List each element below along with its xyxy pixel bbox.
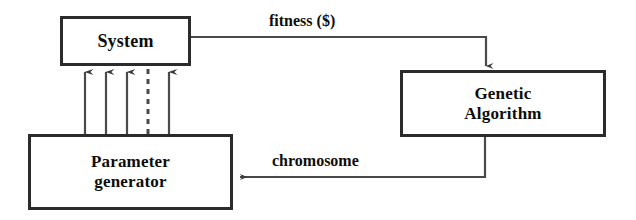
node-genetic-algorithm-line1: Genetic (474, 84, 531, 103)
node-parameter-generator-line2: generator (94, 172, 167, 191)
edge-label-chromosome: chromosome (272, 152, 359, 170)
diagram-canvas: System Genetic Algorithm Parameter gener… (0, 0, 636, 220)
edge-label-fitness: fitness ($) (269, 12, 335, 30)
node-genetic-algorithm[interactable]: Genetic Algorithm (400, 70, 606, 137)
edge-fitness (191, 37, 486, 66)
node-parameter-generator[interactable]: Parameter generator (28, 134, 233, 210)
node-genetic-algorithm-label: Genetic Algorithm (464, 84, 541, 123)
node-parameter-generator-line1: Parameter (91, 152, 170, 171)
node-system[interactable]: System (60, 16, 191, 66)
edge-parameters (85, 68, 169, 134)
node-parameter-generator-label: Parameter generator (91, 152, 170, 191)
node-system-label: System (97, 31, 153, 52)
node-genetic-algorithm-line2: Algorithm (464, 104, 541, 123)
edge-fitness-path (191, 37, 486, 66)
